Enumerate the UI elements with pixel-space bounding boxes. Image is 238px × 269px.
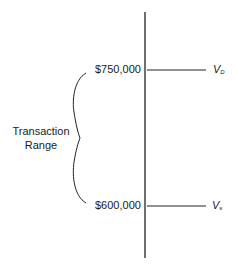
range-label-line2: Range xyxy=(4,138,78,152)
upper-symbol: VD xyxy=(213,63,225,75)
lower-value-label: $600,000 xyxy=(95,199,141,211)
transaction-range-label: Transaction Range xyxy=(4,124,78,152)
lower-symbol: Vs xyxy=(212,199,222,211)
range-label-line1: Transaction xyxy=(4,124,78,138)
upper-symbol-subscript: D xyxy=(220,69,224,75)
upper-value-label: $750,000 xyxy=(95,63,141,75)
lower-symbol-subscript: s xyxy=(219,205,222,211)
